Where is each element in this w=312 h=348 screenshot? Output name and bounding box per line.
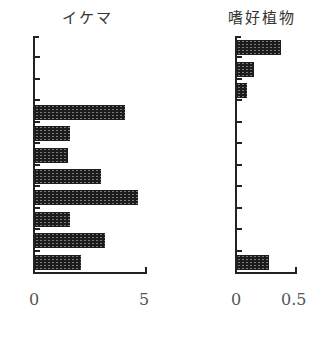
bar bbox=[35, 255, 81, 270]
right-x-tick-0: 0 bbox=[231, 290, 241, 309]
left-chart-title: イケマ bbox=[62, 6, 113, 27]
y-axis-tick bbox=[237, 185, 242, 187]
bar bbox=[35, 233, 105, 248]
x-axis bbox=[33, 272, 145, 274]
x-axis-endcap bbox=[145, 267, 147, 274]
y-axis-tick bbox=[237, 36, 241, 38]
y-axis-tick bbox=[237, 56, 242, 58]
bar bbox=[35, 105, 125, 120]
y-axis-tick bbox=[35, 36, 39, 38]
bar bbox=[35, 190, 138, 205]
y-axis-tick bbox=[35, 142, 40, 144]
y-axis-tick bbox=[237, 78, 242, 80]
bar bbox=[237, 255, 269, 270]
left-x-tick-0: 0 bbox=[29, 290, 39, 309]
y-axis-tick bbox=[35, 99, 40, 101]
x-axis-endcap bbox=[295, 267, 297, 274]
bar bbox=[237, 83, 247, 98]
y-axis-tick bbox=[35, 164, 40, 166]
y-axis-tick bbox=[35, 250, 40, 252]
right-chart-title: 嗜好植物 bbox=[228, 6, 296, 27]
y-axis-tick bbox=[35, 78, 40, 80]
y-axis-tick bbox=[237, 250, 242, 252]
y-axis-tick bbox=[35, 185, 40, 187]
y-axis-tick bbox=[237, 164, 242, 166]
y-axis-tick bbox=[35, 56, 40, 58]
x-axis bbox=[235, 272, 295, 274]
bar bbox=[35, 126, 70, 141]
bar bbox=[35, 212, 70, 227]
left-x-tick-5: 5 bbox=[139, 290, 149, 309]
y-axis-tick bbox=[237, 207, 242, 209]
right-x-tick-0-5: 0.5 bbox=[281, 290, 306, 309]
y-axis-tick bbox=[237, 99, 242, 101]
bar bbox=[237, 62, 254, 77]
bar bbox=[35, 148, 68, 163]
y-axis-tick bbox=[237, 228, 242, 230]
bar bbox=[237, 40, 281, 55]
y-axis-tick bbox=[35, 121, 40, 123]
y-axis-tick bbox=[35, 228, 40, 230]
bar bbox=[35, 169, 101, 184]
y-axis-tick bbox=[35, 207, 40, 209]
y-axis-tick bbox=[237, 142, 242, 144]
y-axis-tick bbox=[237, 121, 242, 123]
